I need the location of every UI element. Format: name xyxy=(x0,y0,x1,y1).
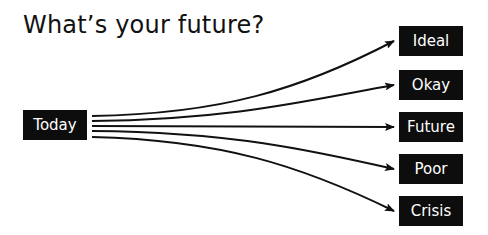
node-label: Okay xyxy=(412,76,450,94)
node-okay: Okay xyxy=(399,70,463,100)
arrow-crisis xyxy=(92,137,394,211)
node-today: Today xyxy=(23,110,87,140)
node-label: Crisis xyxy=(411,202,452,220)
node-ideal: Ideal xyxy=(399,26,463,56)
node-poor: Poor xyxy=(399,154,463,184)
node-label: Today xyxy=(33,116,76,134)
arrow-poor xyxy=(92,131,394,169)
arrow-ideal xyxy=(92,41,394,116)
node-crisis: Crisis xyxy=(399,196,463,226)
arrow-okay xyxy=(92,85,394,121)
node-label: Poor xyxy=(414,160,447,178)
arrow-future xyxy=(92,126,394,127)
node-future: Future xyxy=(399,112,463,142)
node-label: Future xyxy=(407,118,455,136)
node-label: Ideal xyxy=(413,32,450,50)
